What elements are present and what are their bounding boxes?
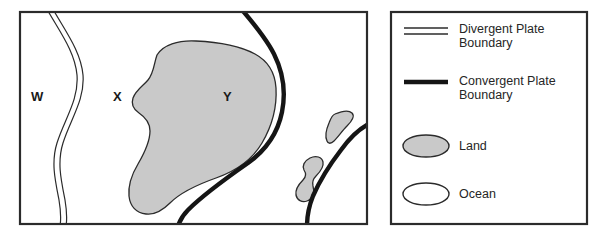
map-panel bbox=[20, 11, 367, 226]
legend-label-divergent-plate-boundary: Divergent Plate Boundary bbox=[459, 22, 544, 50]
legend-label-convergent-plate-boundary: Convergent Plate Boundary bbox=[459, 74, 556, 102]
land-symbol bbox=[403, 135, 449, 157]
legend-label-land: Land bbox=[459, 139, 487, 153]
figure-root: W X Y Divergent Plate Boundary Convergen… bbox=[0, 0, 602, 239]
map-region-label-w: W bbox=[31, 90, 43, 103]
map-region-label-x: X bbox=[113, 90, 122, 103]
legend-label-ocean: Ocean bbox=[459, 187, 496, 201]
ocean-symbol bbox=[403, 183, 449, 205]
map-region-label-y: Y bbox=[223, 90, 232, 103]
